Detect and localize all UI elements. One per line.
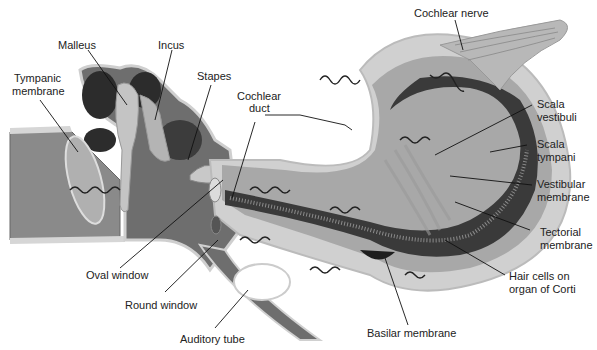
label-tympanic-membrane-2: membrane (12, 85, 65, 98)
label-vestibular-membrane-2: membrane (537, 191, 590, 204)
label-incus: Incus (158, 39, 184, 52)
label-tympanic-membrane-1: Tympanic (14, 72, 61, 85)
label-hair-cells-2: organ of Corti (509, 283, 576, 296)
label-malleus: Malleus (58, 39, 96, 52)
label-stapes: Stapes (197, 70, 231, 83)
cochlea-diagram (0, 0, 597, 350)
label-scala-vestibuli-2: vestibuli (537, 111, 577, 124)
label-scala-vestibuli-1: Scala (537, 98, 565, 111)
label-scala-tympani-2: tympani (537, 151, 576, 164)
label-cochlear-duct-2: duct (249, 102, 270, 115)
label-auditory-tube: Auditory tube (180, 333, 245, 346)
label-cochlear-nerve: Cochlear nerve (414, 7, 489, 20)
label-scala-tympani-1: Scala (537, 138, 565, 151)
label-basilar-membrane: Basilar membrane (367, 327, 456, 340)
label-tectorial-membrane-1: Tectorial (540, 226, 581, 239)
label-hair-cells-1: Hair cells on (509, 270, 570, 283)
label-round-window: Round window (125, 299, 197, 312)
label-vestibular-membrane-1: Vestibular (537, 178, 585, 191)
label-oval-window: Oval window (86, 269, 148, 282)
label-tectorial-membrane-2: membrane (540, 239, 593, 252)
round-window (211, 216, 221, 234)
